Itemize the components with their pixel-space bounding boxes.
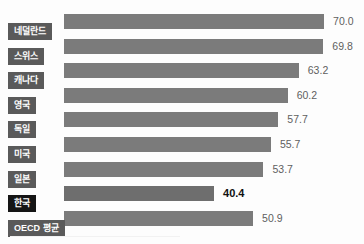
bar-row: 영국60.2 (0, 88, 364, 114)
value-label: 55.7 (280, 136, 300, 152)
bar (64, 137, 271, 152)
bar-row: 한국40.4 (0, 186, 364, 212)
category-label: 캐나다 (8, 72, 44, 89)
value-label: 50.9 (262, 210, 282, 226)
bar-row: 네덜란드70.0 (0, 14, 364, 40)
bar (64, 63, 299, 78)
bar-row: 미국55.7 (0, 137, 364, 163)
bar-row: 독일57.7 (0, 112, 364, 138)
bar-row: 스위스69.8 (0, 39, 364, 65)
value-label: 63.2 (308, 62, 328, 78)
value-label: 69.8 (332, 38, 352, 54)
category-label: 미국 (8, 146, 36, 163)
bar (64, 14, 324, 29)
value-label: 53.7 (272, 161, 292, 177)
value-label: 70.0 (333, 13, 353, 29)
category-label: 네덜란드 (8, 23, 52, 40)
bar (64, 162, 263, 177)
category-label: 일본 (8, 171, 36, 188)
category-label: OECD 평균 (8, 220, 65, 237)
bottom-divider (10, 236, 180, 237)
category-label: 영국 (8, 97, 36, 114)
bar (64, 211, 253, 226)
category-label: 스위스 (8, 48, 44, 65)
bar-row: 일본53.7 (0, 162, 364, 188)
bar (64, 39, 323, 54)
category-label: 독일 (8, 121, 36, 138)
bar-row: 캐나다63.2 (0, 63, 364, 89)
value-label: 40.4 (223, 185, 244, 201)
bar (64, 186, 214, 201)
value-label: 60.2 (297, 87, 317, 103)
bar (64, 112, 278, 127)
bar (64, 88, 288, 103)
value-label: 57.7 (287, 111, 307, 127)
bar-row: OECD 평균50.9 (0, 211, 364, 237)
horizontal-bar-chart: 네덜란드70.0스위스69.8캐나다63.2영국60.2독일57.7미국55.7… (0, 0, 364, 244)
category-label: 한국 (8, 195, 36, 212)
